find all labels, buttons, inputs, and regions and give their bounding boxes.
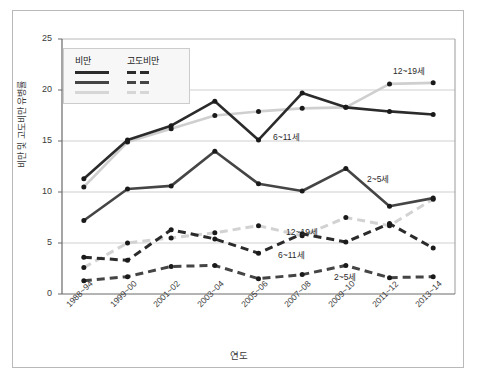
legend-swatch-severe-2: [127, 81, 149, 84]
series-point: [212, 230, 217, 235]
series-point: [212, 236, 217, 241]
legend-title-obesity: 비만: [75, 54, 91, 67]
series-point: [212, 149, 217, 154]
y-tick-label: 5: [30, 237, 52, 247]
y-tick-label: 0: [30, 288, 52, 298]
series-point: [212, 263, 217, 268]
series-point: [81, 184, 86, 189]
series-point: [125, 258, 130, 263]
series-point: [125, 186, 130, 191]
ann-obesity-2-5: 2~5세: [367, 172, 389, 184]
series-point: [125, 274, 130, 279]
series-point: [169, 235, 174, 240]
legend-swatch-obesity-3: [75, 91, 109, 94]
x-axis-label: 연도: [0, 348, 477, 362]
y-axis-label: 비만 및 고도비만 유병률: [15, 60, 28, 190]
series-point: [256, 109, 261, 114]
series-point: [343, 166, 348, 171]
series-point: [81, 176, 86, 181]
legend-swatch-obesity-2: [75, 81, 109, 84]
series-point: [125, 241, 130, 246]
legend-swatch-severe-3: [127, 91, 149, 94]
y-tick-label: 10: [30, 186, 52, 196]
legend-title-severe-obesity: 고도비만: [127, 54, 159, 67]
series-point: [387, 81, 392, 86]
legend-swatch-severe-1: [127, 71, 149, 74]
series-point: [387, 204, 392, 209]
series-point: [431, 197, 436, 202]
ann-severe-12-19: 12~19세: [286, 225, 318, 237]
ann-severe-6-11: 6~11세: [278, 248, 305, 260]
series-point: [431, 80, 436, 85]
series-point: [343, 105, 348, 110]
series-point: [387, 223, 392, 228]
ann-severe-2-5: 2~5세: [334, 270, 356, 282]
series-point: [256, 223, 261, 228]
series-point: [343, 263, 348, 268]
series-point: [169, 227, 174, 232]
series-point: [169, 126, 174, 131]
series-point: [431, 246, 436, 251]
series-point: [81, 265, 86, 270]
series-point: [212, 99, 217, 104]
chart-legend: 비만 고도비만: [63, 48, 190, 104]
series-point: [431, 112, 436, 117]
y-tick-label: 15: [30, 135, 52, 145]
series-point: [125, 140, 130, 145]
series-point: [81, 255, 86, 260]
series-point: [256, 137, 261, 142]
ann-obesity-6-11: 6~11세: [273, 130, 300, 142]
series-point: [300, 106, 305, 111]
series-point: [256, 251, 261, 256]
y-tick-label: 20: [30, 84, 52, 94]
series-point: [169, 183, 174, 188]
series-line-0: [84, 93, 433, 179]
series-point: [387, 109, 392, 114]
ann-obesity-12-19: 12~19세: [393, 64, 425, 76]
series-line-4: [84, 199, 433, 267]
series-point: [169, 264, 174, 269]
series-point: [300, 188, 305, 193]
legend-swatch-obesity-1: [75, 71, 109, 74]
series-point: [300, 272, 305, 277]
series-point: [212, 113, 217, 118]
series-point: [256, 181, 261, 186]
series-point: [81, 218, 86, 223]
series-point: [300, 91, 305, 96]
chart-figure: 비만 및 고도비만 유병률 연도 0510152025 1988~941999~…: [0, 0, 477, 383]
y-tick-label: 25: [30, 33, 52, 43]
series-point: [343, 239, 348, 244]
series-point: [343, 215, 348, 220]
